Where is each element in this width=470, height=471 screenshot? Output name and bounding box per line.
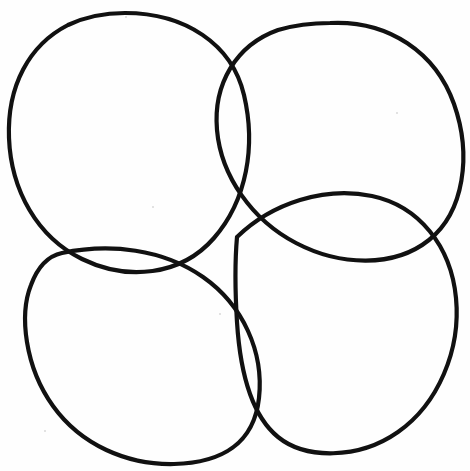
four-circles-drawing (0, 0, 470, 471)
drawing-canvas (0, 0, 470, 471)
